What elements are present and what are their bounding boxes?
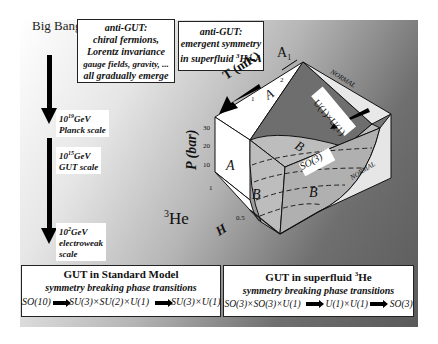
symmetry-group: SU(3)×U(1) — [171, 296, 221, 307]
gut-superfluid-he3-box: GUT in superfluid 3He symmetry breaking … — [223, 265, 414, 317]
p-axis-label: P (bar) — [184, 130, 200, 170]
left-a-label: A — [225, 158, 235, 173]
transition-arrow-icon — [155, 301, 169, 305]
a1-label: A1 — [277, 45, 291, 62]
t-axis-label: T (mK) — [220, 48, 263, 83]
symmetry-chain: SO(10)SU(3)×SU(2)×U(1)SU(3)×U(1) — [22, 294, 220, 309]
transition-arrow-icon — [370, 302, 384, 306]
p-tick-10: 10 — [203, 161, 211, 169]
box-title: GUT in superfluid 3He — [224, 267, 413, 284]
h-axis-label: H — [212, 220, 230, 239]
right-b-label: B — [309, 185, 318, 200]
t-tick-2: 2 — [280, 76, 284, 84]
p-tick-1: 1 — [209, 184, 213, 192]
box-subtitle: symmetry breaking phase transitions — [22, 281, 220, 294]
t-tick-1: 1 — [251, 95, 255, 103]
symmetry-group: SO(10) — [22, 296, 51, 307]
symmetry-group: SO(3) — [390, 299, 413, 309]
front-b-label: B — [252, 187, 261, 202]
symmetry-group: SO(3)×SO(3)×U(1) — [224, 299, 300, 309]
title-text: GUT in superfluid — [265, 271, 354, 283]
box-subtitle: symmetry breaking phase transitions — [224, 284, 413, 297]
transition-arrow-icon — [53, 301, 67, 305]
gut-standard-model-box: GUT in Standard Model symmetry breaking … — [21, 265, 221, 317]
symmetry-group: SU(3)×SU(2)×U(1) — [69, 296, 149, 307]
title-text: He — [358, 271, 371, 283]
h-tick-05: 0.5 — [236, 214, 245, 222]
transition-arrow-icon — [306, 302, 320, 306]
p-tick-30: 30 — [203, 124, 211, 132]
symmetry-chain: SO(3)×SO(3)×U(1)U(1)×U(1)SO(3) — [224, 297, 413, 312]
box-title: GUT in Standard Model — [22, 267, 220, 281]
p-tick-20: 20 — [203, 142, 211, 150]
symmetry-group: U(1)×U(1) — [326, 299, 368, 309]
